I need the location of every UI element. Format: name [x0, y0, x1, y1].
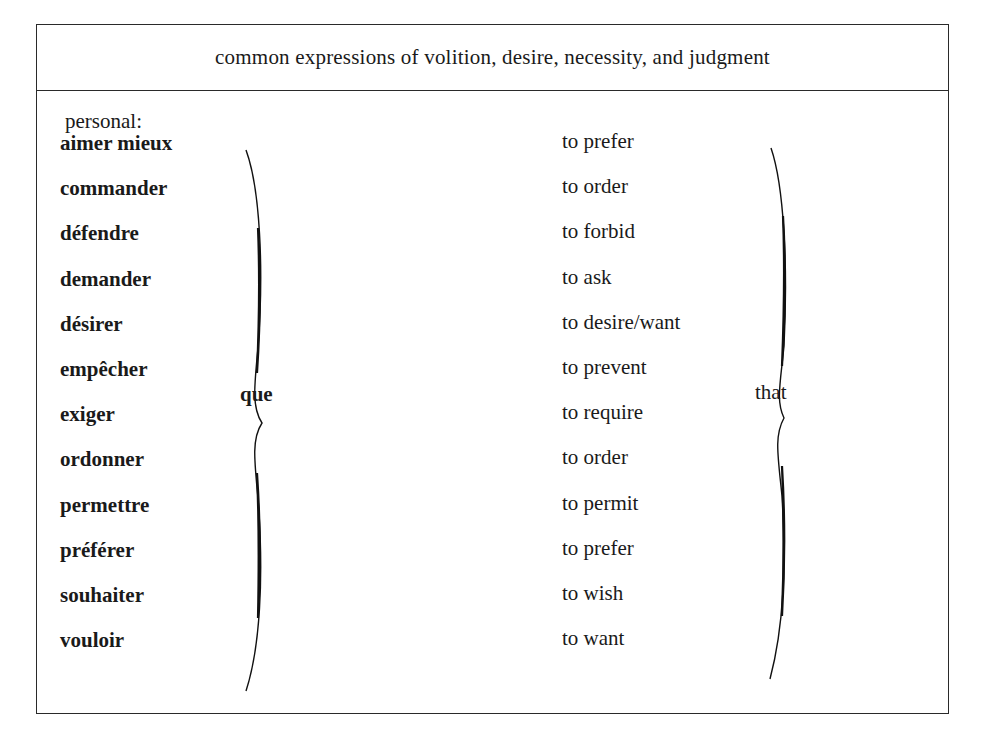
english-translation-list: to prefer to order to forbid to ask to d…: [562, 126, 680, 668]
english-translation: to order: [562, 171, 680, 216]
english-translation: to desire/want: [562, 307, 680, 352]
that-connector: that: [755, 380, 787, 405]
english-translation: to prefer: [562, 533, 680, 578]
expressions-table: common expressions of volition, desire, …: [36, 24, 949, 714]
french-verb-list: aimer mieux commander défendre demander …: [60, 128, 172, 670]
french-verb: désirer: [60, 309, 172, 354]
english-translation: to require: [562, 397, 680, 442]
table-title: common expressions of volition, desire, …: [37, 25, 948, 91]
english-translation: to wish: [562, 578, 680, 623]
french-verb: vouloir: [60, 625, 172, 670]
english-brace-icon: [766, 146, 796, 681]
french-verb: aimer mieux: [60, 128, 172, 173]
english-translation: to permit: [562, 488, 680, 533]
english-translation: to want: [562, 623, 680, 668]
que-connector: que: [240, 382, 273, 407]
french-verb: défendre: [60, 218, 172, 263]
french-verb: permettre: [60, 490, 172, 535]
french-verb: ordonner: [60, 444, 172, 489]
english-translation: to order: [562, 442, 680, 487]
french-brace-icon: [238, 148, 268, 693]
english-translation: to prevent: [562, 352, 680, 397]
english-translation: to forbid: [562, 216, 680, 261]
french-verb: préférer: [60, 535, 172, 580]
english-translation: to ask: [562, 262, 680, 307]
french-verb: demander: [60, 264, 172, 309]
french-verb: souhaiter: [60, 580, 172, 625]
english-translation: to prefer: [562, 126, 680, 171]
french-verb: commander: [60, 173, 172, 218]
french-verb: exiger: [60, 399, 172, 444]
french-verb: empêcher: [60, 354, 172, 399]
